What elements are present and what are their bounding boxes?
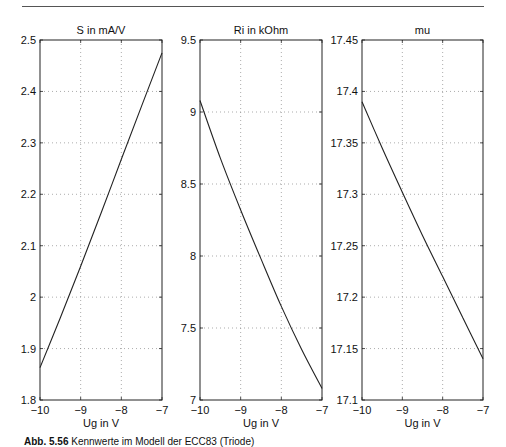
y-tick-label: 7.5 xyxy=(181,322,196,334)
y-tick-label: 2 xyxy=(30,291,36,303)
x-axis-label: Ug in V xyxy=(404,417,441,429)
caption-label: Abb. 5.56 xyxy=(24,436,68,447)
series-line-ri xyxy=(200,100,322,388)
chart-title: mu xyxy=(415,24,430,36)
y-tick-label: 2.5 xyxy=(21,34,36,46)
y-tick-label: 1.9 xyxy=(21,343,36,355)
x-axis-label: Ug in V xyxy=(83,417,120,429)
y-tick-label: 2.4 xyxy=(21,85,36,97)
x-tick-label: −7 xyxy=(316,404,329,416)
y-tick-label: 17.4 xyxy=(337,85,358,97)
y-tick-label: 2.3 xyxy=(21,137,36,149)
figure-caption: Abb. 5.56 Kennwerte im Modell der ECC83 … xyxy=(24,436,254,447)
chart-panel-2: −10−9−8−777.588.599.5Ri in kOhmUg in V xyxy=(181,24,329,429)
x-tick-label: −7 xyxy=(156,404,169,416)
x-axis-label: Ug in V xyxy=(243,417,280,429)
y-tick-label: 2.2 xyxy=(21,188,36,200)
series-line-s xyxy=(40,53,162,368)
y-tick-label: 17.35 xyxy=(330,137,358,149)
x-tick-label: −9 xyxy=(234,404,247,416)
y-tick-label: 17.2 xyxy=(337,291,358,303)
caption-text: Kennwerte im Modell der ECC83 (Triode) xyxy=(71,436,254,447)
y-tick-label: 8.5 xyxy=(181,178,196,190)
y-tick-label: 9.5 xyxy=(181,34,196,46)
y-tick-label: 17.45 xyxy=(330,34,358,46)
y-tick-label: 17.1 xyxy=(337,394,358,406)
y-tick-label: 1.8 xyxy=(21,394,36,406)
axes-box xyxy=(200,40,322,400)
chart-panel-1: −10−9−8−71.81.922.12.22.32.42.5S in mA/V… xyxy=(21,24,169,429)
x-tick-label: −9 xyxy=(74,404,87,416)
x-tick-label: −8 xyxy=(275,404,288,416)
axes-box xyxy=(40,40,162,400)
chart-panel-3: −10−9−8−717.117.1517.217.2517.317.3517.4… xyxy=(330,24,489,429)
y-tick-label: 7 xyxy=(190,394,196,406)
x-tick-label: −9 xyxy=(396,404,409,416)
chart-title: S in mA/V xyxy=(77,24,127,36)
y-tick-label: 8 xyxy=(190,250,196,262)
axes-box xyxy=(362,40,483,400)
x-tick-label: −8 xyxy=(436,404,449,416)
y-tick-label: 17.15 xyxy=(330,343,358,355)
x-tick-label: −7 xyxy=(477,404,490,416)
y-tick-label: 17.3 xyxy=(337,188,358,200)
y-tick-label: 17.25 xyxy=(330,240,358,252)
series-line-mu xyxy=(362,102,483,359)
y-tick-label: 2.1 xyxy=(21,240,36,252)
x-tick-label: −8 xyxy=(115,404,128,416)
chart-title: Ri in kOhm xyxy=(234,24,288,36)
y-tick-label: 9 xyxy=(190,106,196,118)
